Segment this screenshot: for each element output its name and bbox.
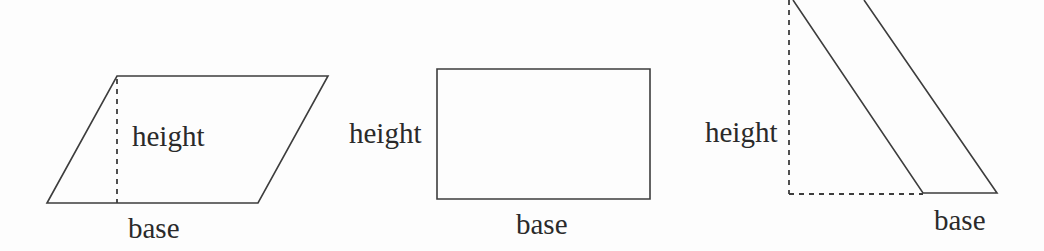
geometry-diagram: height base height base height base <box>0 0 1044 251</box>
parallelogram-figure: height base <box>47 76 328 244</box>
rectangle-base-label: base <box>516 208 568 240</box>
rectangle-figure: height base <box>349 69 650 240</box>
slanted-parallelogram-base-label: base <box>934 204 986 236</box>
base-height-figures-svg: height base height base height base <box>0 0 1044 251</box>
rectangle-outline <box>437 69 650 199</box>
slanted-parallelogram-figure: height base <box>705 0 997 236</box>
rectangle-height-label: height <box>349 117 422 149</box>
slanted-parallelogram-height-label: height <box>705 116 778 148</box>
parallelogram-base-label: base <box>128 212 180 244</box>
slanted-parallelogram-outline <box>793 0 997 193</box>
parallelogram-height-label: height <box>132 120 205 152</box>
